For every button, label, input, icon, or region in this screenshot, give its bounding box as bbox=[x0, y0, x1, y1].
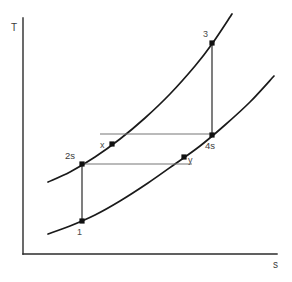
entropy-axis-label: s bbox=[273, 259, 278, 270]
ts-diagram-figure: 12s34sxy T s bbox=[0, 0, 292, 282]
state-point-label-x: x bbox=[100, 140, 105, 150]
axes-group bbox=[23, 18, 277, 254]
state-point-label-2s: 2s bbox=[65, 150, 75, 161]
state-point-label-1: 1 bbox=[77, 227, 82, 237]
process-lines-group bbox=[82, 43, 213, 221]
high-pressure-isobar-curve bbox=[48, 14, 232, 182]
state-point-marker-y bbox=[181, 154, 186, 159]
state-point-marker-2s bbox=[79, 161, 84, 166]
state-point-labels-group: 12s34sxy bbox=[65, 29, 215, 237]
state-point-marker-x bbox=[109, 141, 114, 146]
state-point-label-y: y bbox=[188, 155, 193, 165]
state-point-marker-4s bbox=[209, 132, 214, 137]
ts-diagram-canvas: 12s34sxy T s bbox=[0, 0, 292, 282]
state-point-label-3: 3 bbox=[203, 29, 208, 39]
temperature-axis-label: T bbox=[11, 22, 17, 33]
state-point-marker-1 bbox=[79, 218, 84, 223]
state-point-label-4s: 4s bbox=[205, 140, 215, 151]
state-point-marker-3 bbox=[209, 40, 214, 45]
